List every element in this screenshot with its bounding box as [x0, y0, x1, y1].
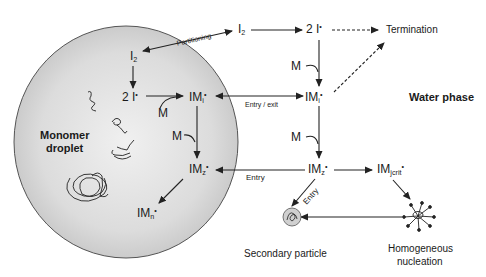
node-imz-water: IMz• [308, 163, 327, 176]
node-imi-droplet: IMi• [189, 91, 206, 104]
node-termination: Termination [386, 25, 438, 35]
label-secondary-particle: Secondary particle [244, 249, 327, 259]
monomer-curve-water-2 [306, 136, 318, 144]
node-imn-droplet: IMn• [137, 207, 157, 220]
label-monomer: Monomer [40, 130, 90, 141]
node-imjcrit: IMjcrit• [377, 163, 404, 176]
node-2i-droplet: 2 I• [122, 91, 138, 103]
monomer-droplet-2: M [172, 130, 182, 142]
edge-label-entry-exit: Entry / exit [245, 101, 278, 108]
monomer-water-2: M [291, 131, 301, 143]
label-droplet: droplet [46, 143, 83, 154]
node-i2-water: I2 [238, 23, 245, 36]
secondary-particle-icon [283, 208, 301, 226]
label-homogeneous: Homogeneous [388, 244, 453, 254]
homogeneous-nucleation-icon [403, 202, 436, 232]
nucleation-arrow [393, 180, 410, 199]
monomer-droplet-1: M [158, 107, 168, 119]
label-nucleation: nucleation [397, 257, 443, 267]
monomer-curve-water-1 [306, 65, 318, 72]
node-imz-droplet: IMz• [189, 163, 208, 176]
termination-arrow-2 [334, 43, 384, 92]
node-2i-water: 2 I• [306, 23, 322, 35]
node-i2-droplet: I2 [130, 50, 137, 63]
edge-label-entry-droplet: Entry [246, 174, 265, 182]
label-water-phase: Water phase [409, 92, 474, 103]
monomer-water-1: M [291, 60, 301, 72]
node-imi-water: IMi• [305, 91, 322, 104]
